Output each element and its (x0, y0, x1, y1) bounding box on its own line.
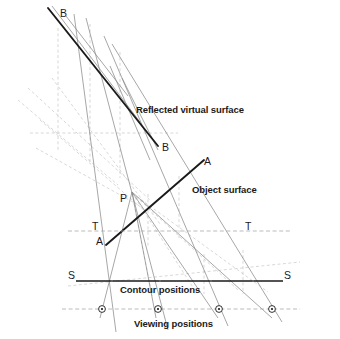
contour-point (159, 280, 161, 282)
contour-point (210, 280, 212, 282)
label-p-point: P (120, 193, 127, 204)
label-object-surface: Object surface (192, 185, 257, 195)
contour-point (111, 280, 113, 282)
viewing-position-marker (155, 306, 162, 313)
contour-point (252, 280, 254, 282)
label-s-right: S (284, 270, 291, 281)
primary-surfaces (48, 8, 204, 245)
label-s-left: S (68, 270, 75, 281)
dashed-ray-2 (28, 88, 150, 200)
viewing-position-marker (216, 306, 223, 313)
gray-ray-p-1 (100, 192, 132, 318)
dashed-shallow-line (68, 262, 300, 286)
dashed-ray-p-4 (132, 193, 268, 292)
label-a-upper: A (204, 156, 211, 167)
viewing-position-marker (269, 306, 276, 313)
label-reflected-virtual-surface: Reflected virtual surface (136, 105, 244, 115)
gray-ray-p-4 (132, 192, 272, 318)
dashed-ray-1 (18, 100, 118, 185)
gray-stroke-top-1 (66, 16, 128, 96)
label-b-top: B (60, 8, 67, 19)
label-viewing-positions: Viewing positions (134, 319, 213, 329)
reflected-virtual-surface-line (48, 8, 158, 146)
label-t-right: T (245, 221, 251, 232)
label-a-lower: A (96, 236, 103, 247)
label-t-left: T (92, 221, 98, 232)
viewing-position-marker (99, 306, 106, 313)
label-b-mid: B (162, 142, 169, 153)
optical-diagram-figure: B B A A P T T S S Reflected virtual surf… (0, 0, 340, 339)
dashed-ray-4 (52, 78, 160, 224)
construction-dashed-lines (18, 24, 300, 296)
label-contour-positions: Contour positions (120, 285, 200, 295)
